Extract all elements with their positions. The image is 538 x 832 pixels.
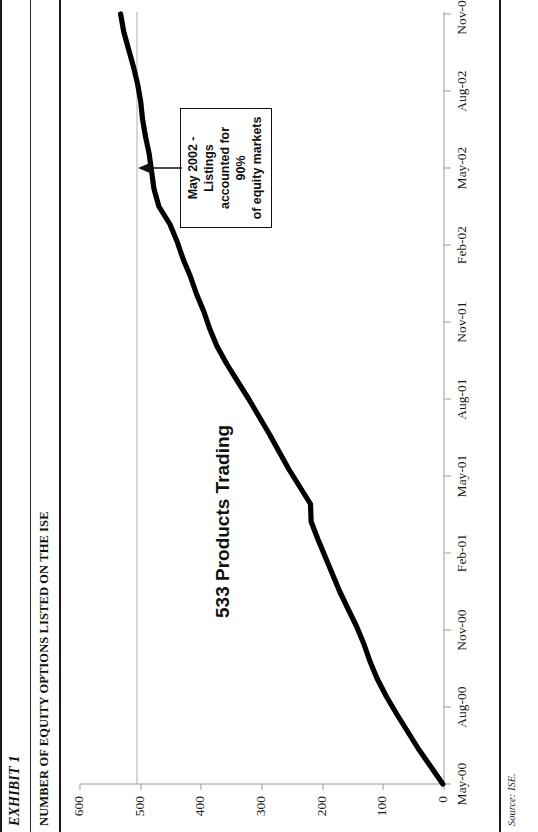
frame-rule-under-heading	[59, 0, 61, 832]
xtick-label: May-01	[454, 455, 469, 498]
category-axis-labels: May-00 Aug-00 Nov-00 Feb-01 May-01 Aug-0…	[454, 0, 469, 805]
callout-text: May 2002 - Listings accounted for 90% of…	[186, 116, 265, 220]
ytick-label: 600	[71, 796, 86, 817]
xtick-label: Feb-01	[454, 534, 469, 572]
xtick-label: Aug-01	[454, 378, 469, 419]
line-chart: 0 100 200 300 400 500 600 May-00 Aug-00 …	[62, 0, 496, 832]
series-line	[121, 14, 443, 784]
exhibit-heading: NUMBER OF EQUITY OPTIONS LISTED ON THE I…	[37, 511, 52, 826]
ytick-label: 500	[132, 796, 147, 817]
ytick-label: 0	[435, 796, 450, 803]
ytick-label: 400	[192, 796, 207, 817]
rotated-page-content: EXHIBIT 1 NUMBER OF EQUITY OPTIONS LISTE…	[0, 0, 538, 832]
xtick-label: May-00	[454, 762, 469, 805]
frame-rule-bottom	[499, 0, 501, 832]
callout-box: May 2002 - Listings accounted for 90% of…	[180, 108, 272, 228]
value-axis-labels: 0 100 200 300 400 500 600	[71, 796, 450, 817]
up-arrow-icon	[136, 154, 184, 182]
ytick-label: 200	[314, 796, 329, 817]
series-label: 533 Products Trading	[212, 425, 234, 618]
xtick-label: Aug-02	[454, 70, 469, 111]
exhibit-page: EXHIBIT 1 NUMBER OF EQUITY OPTIONS LISTE…	[0, 0, 538, 832]
ytick-label: 100	[374, 796, 389, 817]
xtick-label: May-02	[454, 147, 469, 190]
ytick-label: 300	[253, 796, 268, 817]
frame-rule-under-exhibit	[30, 0, 31, 832]
xtick-label: Nov-02	[454, 0, 469, 35]
xtick-label: Nov-01	[454, 301, 469, 342]
frame-rule-top	[0, 0, 2, 832]
xtick-label: Feb-02	[454, 226, 469, 264]
source-note: Source: ISE.	[506, 773, 517, 826]
xtick-label: Nov-00	[454, 609, 469, 650]
exhibit-label: EXHIBIT 1	[7, 755, 23, 826]
value-axis-ticks	[80, 784, 444, 790]
xtick-label: Aug-00	[454, 686, 469, 727]
chart-svg: 0 100 200 300 400 500 600 May-00 Aug-00 …	[62, 0, 496, 832]
category-axis-ticks	[444, 14, 451, 784]
